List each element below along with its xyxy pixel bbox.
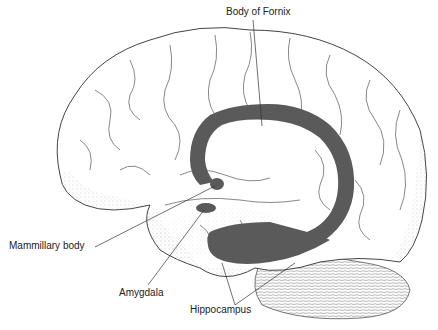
label-body-of-fornix: Body of Fornix: [226, 6, 290, 17]
label-amygdala: Amygdala: [119, 287, 163, 298]
label-hippocampus: Hippocampus: [190, 304, 251, 315]
brain-diagram: [0, 0, 438, 330]
label-mammillary-body: Mammillary body: [9, 240, 85, 251]
amygdala: [196, 203, 216, 213]
mammillary-body: [210, 178, 224, 190]
